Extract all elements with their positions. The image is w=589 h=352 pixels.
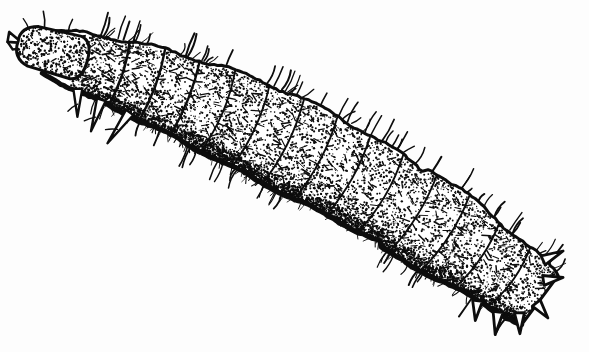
figure-container [0, 0, 589, 352]
larva-illustration [0, 0, 589, 352]
